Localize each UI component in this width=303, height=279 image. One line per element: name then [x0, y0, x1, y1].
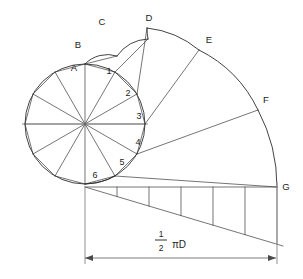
point-label-c: C [99, 16, 106, 27]
point-label-d: D [146, 12, 153, 23]
dimension-label: 1 2 πD [155, 229, 186, 253]
involute-diagram: 1 2 πD ABCDEFG 123456 [0, 0, 303, 279]
point-label-f: F [263, 94, 269, 105]
division-label-2: 2 [125, 88, 130, 98]
fraction-numerator: 1 [159, 229, 164, 239]
fraction-denominator: 2 [159, 243, 164, 253]
rectification-hypotenuse [85, 187, 283, 246]
dimension-arrow-right [268, 255, 276, 261]
dimension-label-suffix: πD [172, 239, 186, 250]
point-label-a: A [71, 62, 78, 73]
point-label-e: E [206, 34, 212, 45]
point-label-g: G [282, 181, 289, 192]
division-label-5: 5 [119, 157, 124, 167]
outer-label-group: ABCDEFG [71, 12, 290, 192]
division-label-6: 6 [92, 170, 97, 180]
ladder-tick-group [117, 187, 277, 244]
dimension-arrow-left [85, 255, 93, 261]
diagram-canvas: 1 2 πD ABCDEFG 123456 [0, 0, 303, 279]
division-label-4: 4 [135, 137, 140, 147]
inner-label-group: 123456 [92, 66, 141, 180]
dimension-line [85, 255, 276, 261]
division-label-1: 1 [106, 66, 111, 76]
division-label-3: 3 [136, 111, 141, 121]
point-label-b: B [75, 39, 81, 50]
